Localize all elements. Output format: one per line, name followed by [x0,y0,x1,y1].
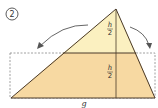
bottom-half-denominator: 2 [108,72,112,80]
upper-triangle [63,9,136,53]
step-number: 2 [9,10,14,19]
triangle-area-diagram: 2 h 2 h 2 g [0,0,158,108]
rotate-right-arrow [130,27,149,45]
lower-trapezoid [11,53,155,98]
bottom-half-numerator: h [108,64,113,72]
top-half-numerator: h [108,21,113,29]
base-label: g [81,99,86,108]
arrowhead-right-icon [146,43,152,49]
top-half-denominator: 2 [108,29,112,37]
